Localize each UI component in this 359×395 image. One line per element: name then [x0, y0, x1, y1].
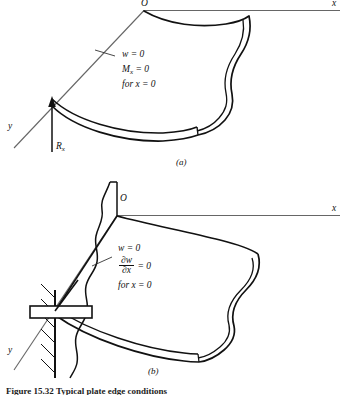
condition-w-rhs-b: 0 — [136, 243, 141, 253]
condition-w-lhs-b: w — [118, 243, 124, 253]
condition-mx-subscript-a: x — [130, 67, 133, 75]
origin-label-b: O — [120, 194, 127, 204]
figure-caption: Figure 15.32 Typical plate edge conditio… — [6, 386, 306, 395]
plate-top-edge-a — [144, 11, 249, 26]
reaction-label-a: Rx — [56, 142, 65, 153]
figure-panel-a: O x y w = 0 Mx = 0 for x = 0 Rx (a) — [0, 0, 359, 185]
x-axis-label-b: x — [332, 204, 336, 214]
condition-w-rel-b: = — [127, 243, 133, 253]
panel-caption-a: (a) — [176, 157, 187, 167]
boundary-conditions-a: w = 0 Mx = 0 for x = 0 — [122, 48, 156, 91]
condition-for-clause-b: for x = 0 — [118, 279, 152, 292]
leader-line-a — [95, 50, 115, 56]
y-axis-label-b: y — [8, 346, 12, 356]
condition-mx-rhs-a: 0 — [144, 64, 149, 74]
boundary-conditions-b: w = 0 ∂w ∂x = 0 for x = 0 — [118, 242, 152, 292]
partial-derivative-fraction-b: ∂w ∂x — [119, 256, 134, 277]
panel-caption-b: (b) — [148, 366, 159, 376]
plate-thickness-cap-right-b — [198, 354, 199, 362]
figure-b-drawing — [0, 180, 359, 385]
condition-slope-rhs-b: 0 — [146, 260, 151, 273]
x-axis-label-a: x — [332, 0, 336, 9]
partial-derivative-numerator-b: ∂w — [119, 256, 134, 266]
condition-w-rel-a: = — [131, 49, 137, 59]
condition-slope-rel-b: = — [137, 260, 143, 273]
support-hatching-b — [41, 284, 55, 373]
condition-for-clause-a: for x = 0 — [122, 78, 156, 91]
condition-slope-b: ∂w ∂x = 0 — [118, 256, 152, 277]
plate-free-edge-outer-a — [198, 16, 250, 135]
condition-w-a: w = 0 — [122, 48, 156, 61]
condition-mx-rel-a: = — [135, 64, 141, 74]
support-bar-b — [30, 306, 92, 318]
origin-label-a: O — [141, 0, 148, 9]
condition-mx-a: Mx = 0 — [122, 63, 156, 77]
plate-free-edge-inner-a — [197, 20, 244, 131]
plate-thickness-cap-right-a — [197, 127, 198, 135]
plate-bottom-edge-a — [52, 106, 198, 141]
plate-near-thickness-a — [52, 99, 197, 133]
reaction-label-subscript-a: x — [62, 145, 65, 153]
plate-free-edge-inner-b — [198, 258, 253, 358]
condition-w-rhs-a: 0 — [140, 49, 145, 59]
partial-derivative-denominator-b: ∂x — [119, 265, 134, 276]
figure-panel-b: O x y w = 0 ∂w ∂x = 0 for x = 0 (b) — [0, 180, 359, 385]
condition-w-lhs-a: w — [122, 49, 128, 59]
y-axis-label-a: y — [8, 122, 12, 132]
condition-w-b: w = 0 — [118, 242, 152, 255]
condition-mx-lhs-a: M — [122, 64, 130, 74]
leader-line-b — [92, 257, 112, 266]
